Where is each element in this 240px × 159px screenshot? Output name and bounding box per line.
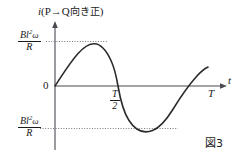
arrow-icon: → [51, 5, 62, 17]
y-axis-arrowhead [52, 21, 58, 28]
fraction-half-period: T 2 [110, 89, 120, 111]
axis-title-to-node: Q [62, 5, 70, 17]
fraction-denominator: 2 [110, 101, 120, 112]
x-axis [55, 83, 227, 88]
numerator-base: Bl [20, 29, 29, 40]
axis-title-close-paren: ) [100, 5, 104, 17]
fraction-negative-amplitude: Bl2ω R [18, 116, 41, 138]
fraction-numerator: Bl2ω [18, 116, 41, 128]
origin-label: 0 [43, 80, 49, 91]
y-axis-label-positive-amplitude: Bl2ω R [18, 30, 41, 52]
fraction-numerator: T [110, 89, 120, 101]
x-axis-tick-period: T [208, 88, 214, 99]
y-axis-label-negative-amplitude: Bl2ω R [18, 116, 41, 138]
fraction-positive-amplitude: Bl2ω R [18, 30, 41, 52]
numerator-omega: ω [32, 30, 38, 40]
figure-container: i(P→Q向き正) Bl2ω R Bl2ω R 0 T 2 T t 図3 [0, 0, 240, 159]
fraction-denominator: R [18, 42, 41, 53]
fraction-numerator: Bl2ω [18, 30, 41, 42]
fraction-denominator: R [18, 128, 41, 139]
x-axis-arrowhead [220, 83, 227, 88]
numerator-omega: ω [32, 116, 38, 126]
x-axis-label: t [228, 75, 231, 86]
x-axis-tick-half-period: T 2 [110, 89, 120, 111]
axis-title: i(P→Q向き正) [38, 6, 103, 17]
figure-caption: 図3 [205, 138, 223, 149]
sine-current-curve [55, 44, 208, 132]
axis-title-japanese: 向き正 [70, 6, 100, 17]
numerator-base: Bl [20, 115, 29, 126]
